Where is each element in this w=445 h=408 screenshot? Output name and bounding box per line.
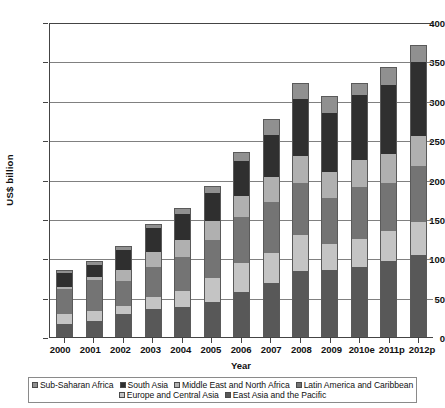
bar-segment — [233, 161, 250, 196]
x-tick-label: 2011p — [377, 344, 407, 355]
bar-slot — [227, 23, 256, 337]
bar-slot — [345, 23, 374, 337]
bar-segment — [145, 297, 162, 310]
bar-segment — [263, 253, 280, 283]
bar-segment — [174, 214, 191, 240]
bar-segment — [292, 183, 309, 234]
stacked-bar[interactable] — [233, 152, 250, 337]
legend-item[interactable]: East Asia and the Pacific — [225, 390, 326, 400]
legend-label: Middle East and North Africa — [182, 380, 290, 390]
stacked-bar[interactable] — [115, 246, 132, 337]
bar-segment — [174, 291, 191, 308]
x-tick-mark — [300, 338, 301, 343]
x-tick-mark — [418, 338, 419, 343]
bar-segment — [410, 255, 427, 337]
x-tick-label: 2003 — [135, 344, 165, 355]
legend-item[interactable]: South Asia — [120, 380, 169, 390]
stacked-bar[interactable] — [86, 261, 103, 337]
stacked-bar[interactable] — [292, 83, 309, 337]
x-tick-mark — [359, 338, 360, 343]
bar-segment — [292, 235, 309, 271]
bar-segment — [174, 307, 191, 337]
bar-segment — [86, 265, 103, 277]
x-tick-label: 2007 — [256, 344, 286, 355]
x-axis-labels: 2000200120022003200420052006200720082009… — [45, 344, 437, 355]
legend-swatch-icon — [174, 382, 180, 388]
bar-segment — [233, 217, 250, 263]
bar-segment — [174, 240, 191, 257]
y-axis-title: US$ billion — [4, 0, 15, 120]
bar-segment — [351, 160, 368, 187]
bar-segment — [380, 154, 397, 182]
legend-item[interactable]: Sub-Saharan Africa — [32, 380, 114, 390]
bar-segment — [380, 67, 397, 85]
legend-item[interactable]: Europe and Central Asia — [119, 390, 219, 400]
bar-segment — [263, 283, 280, 337]
x-tick-label: 2002 — [105, 344, 135, 355]
legend-swatch-icon — [32, 382, 38, 388]
x-tick-label: 2012p — [407, 344, 437, 355]
bar-segment — [351, 187, 368, 239]
stacked-bar[interactable] — [410, 45, 427, 337]
bar-segment — [380, 231, 397, 261]
legend-row-2: Europe and Central AsiaEast Asia and the… — [116, 390, 329, 400]
stacked-bar[interactable] — [56, 270, 73, 337]
stacked-bar[interactable] — [145, 224, 162, 337]
bar-segment — [145, 267, 162, 297]
x-tick-label: 2000 — [45, 344, 75, 355]
bar-segment — [86, 311, 103, 321]
bar-segment — [233, 263, 250, 292]
y-tick-mark — [43, 102, 48, 103]
bar-segment — [380, 85, 397, 154]
bar-segment — [410, 136, 427, 166]
stacked-bar[interactable] — [174, 208, 191, 337]
bar-segment — [233, 292, 250, 337]
bar-segment — [410, 222, 427, 255]
stacked-bar[interactable] — [263, 119, 280, 337]
stacked-bar-chart: US$ billion 400350300250200150100500 200… — [0, 0, 445, 408]
legend-swatch-icon — [296, 382, 302, 388]
bar-segment — [115, 281, 132, 306]
bar-segment — [321, 113, 338, 172]
y-tick-mark — [43, 181, 48, 182]
bar-segment — [321, 270, 338, 337]
bar-segment — [233, 152, 250, 161]
y-tick-mark — [43, 23, 48, 24]
x-axis-title: Year — [49, 360, 433, 371]
bar-slot — [168, 23, 197, 337]
bar-segment — [204, 278, 221, 302]
bar-slot — [197, 23, 226, 337]
bar-segment — [145, 228, 162, 252]
legend-label: East Asia and the Pacific — [233, 390, 326, 400]
legend-swatch-icon — [120, 382, 126, 388]
legend-item[interactable]: Latin America and Caribbean — [296, 380, 413, 390]
x-tick-mark — [241, 338, 242, 343]
bar-segment — [204, 193, 221, 221]
x-tick-label: 2009 — [316, 344, 346, 355]
x-tick-label: 2001 — [75, 344, 105, 355]
bar-segment — [321, 172, 338, 198]
bar-segment — [115, 250, 132, 270]
stacked-bar[interactable] — [351, 83, 368, 337]
bar-segment — [351, 267, 368, 337]
y-tick-mark — [43, 338, 48, 339]
stacked-bar[interactable] — [321, 96, 338, 337]
bar-slot — [315, 23, 344, 337]
bar-segment — [263, 119, 280, 135]
stacked-bar[interactable] — [380, 67, 397, 337]
y-tick-mark — [43, 141, 48, 142]
legend-item[interactable]: Middle East and North Africa — [174, 380, 290, 390]
x-tick-mark — [389, 338, 390, 343]
bar-segment — [321, 244, 338, 270]
legend-label: South Asia — [128, 380, 169, 390]
bar-segment — [292, 99, 309, 156]
legend-swatch-icon — [119, 392, 125, 398]
bar-segment — [204, 186, 221, 193]
legend-label: Europe and Central Asia — [127, 390, 219, 400]
legend-row-1: Sub-Saharan AfricaSouth AsiaMiddle East … — [29, 380, 416, 390]
bar-slot — [138, 23, 167, 337]
bar-segment — [174, 257, 191, 290]
stacked-bar[interactable] — [204, 186, 221, 337]
bar-segment — [321, 96, 338, 113]
x-tick-mark — [330, 338, 331, 343]
